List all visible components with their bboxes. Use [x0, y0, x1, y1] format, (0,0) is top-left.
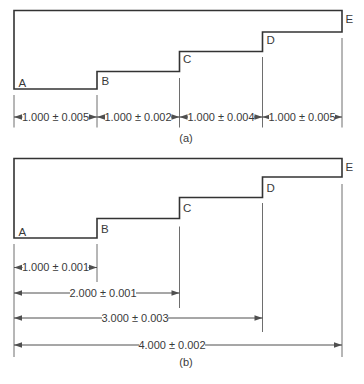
dimension-a-3: 1.000 ± 0.004: [180, 111, 263, 124]
arrowhead-right: [172, 290, 180, 296]
tolerance-dimensioning-figure: A B C D E 1.000 ± 0.005 1.000 ± 0.002: [0, 0, 364, 384]
point-label-b-D: D: [267, 182, 275, 194]
dimension-a-4: 1.000 ± 0.005: [263, 111, 343, 124]
point-label-a-D: D: [267, 34, 275, 46]
point-label-a-B: B: [102, 75, 110, 87]
arrowhead-left: [180, 114, 188, 120]
caption-a: (a): [179, 132, 192, 144]
dimension-value: 4.000 ± 0.002: [138, 339, 205, 351]
diagram-a: A B C D E 1.000 ± 0.005 1.000 ± 0.002: [14, 11, 354, 145]
dimension-b-2: 2.000 ± 0.001: [14, 287, 180, 300]
point-label-b-A: A: [19, 226, 27, 238]
dimension-value: 1.000 ± 0.005: [268, 111, 335, 123]
arrowhead-right: [255, 114, 263, 120]
dimension-value: 1.000 ± 0.004: [187, 111, 254, 123]
arrowhead-left: [14, 265, 22, 271]
arrowhead-right: [89, 114, 97, 120]
dimension-value: 1.000 ± 0.002: [104, 111, 171, 123]
dimension-b-3: 3.000 ± 0.003: [14, 312, 263, 325]
point-label-b-E: E: [346, 161, 354, 173]
part-outline-a: [14, 11, 342, 90]
point-label-b-B: B: [101, 223, 109, 235]
dimension-value: 2.000 ± 0.001: [69, 287, 136, 299]
caption-b: (b): [179, 356, 192, 368]
arrowhead-right: [172, 114, 180, 120]
figure-container: A B C D E 1.000 ± 0.005 1.000 ± 0.002: [0, 0, 364, 384]
dimension-a-2: 1.000 ± 0.002: [97, 111, 180, 124]
dimension-value: 1.000 ± 0.005: [22, 111, 89, 123]
part-outline-b: [14, 159, 342, 239]
dimension-b-4: 4.000 ± 0.002: [14, 339, 342, 352]
dimension-b-1: 1.000 ± 0.001: [14, 261, 97, 274]
dimension-value: 3.000 ± 0.003: [101, 312, 168, 324]
arrowhead-right: [89, 265, 97, 271]
arrowhead-left: [14, 315, 22, 321]
arrowhead-left: [14, 114, 22, 120]
arrowhead-left: [14, 290, 22, 296]
arrowhead-left: [14, 342, 22, 348]
arrowhead-right: [255, 315, 263, 321]
point-label-b-C: C: [183, 202, 191, 214]
point-label-a-C: C: [183, 53, 191, 65]
diagram-b: A B C D E 1.000 ± 0.001 2.000 ± 0.001: [14, 159, 354, 369]
arrowhead-right: [334, 342, 342, 348]
point-label-a-E: E: [346, 13, 354, 25]
dimension-value: 1.000 ± 0.001: [22, 261, 89, 273]
dimension-a-1: 1.000 ± 0.005: [14, 111, 97, 124]
point-label-a-A: A: [19, 77, 27, 89]
